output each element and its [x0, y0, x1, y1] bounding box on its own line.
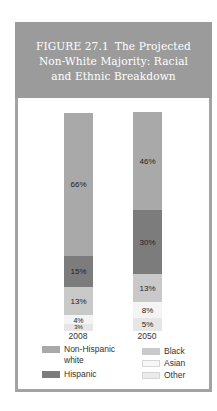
legend-hispanic: Hispanic [42, 369, 97, 380]
year-label-2008: 2008 [58, 331, 98, 341]
segment-other-2008: 3% [64, 324, 93, 331]
segment-black-2050: 13% [133, 274, 162, 302]
bar-2008: 66% 15% 13% 4% 3% [64, 113, 93, 331]
figure-label: FIGURE 27.1 [36, 40, 109, 52]
figure-header: FIGURE 27.1The Projected Non-White Major… [15, 22, 212, 98]
swatch-other [142, 372, 160, 379]
segment-other-2050: 5% [133, 318, 162, 331]
segment-non-hispanic-white-2008: 66% [64, 113, 93, 256]
legend-non-hispanic-white: Non-Hispanicwhite [42, 344, 115, 366]
title-line-2: Non-White Majority: Racial [15, 54, 212, 69]
swatch-hispanic [42, 371, 60, 378]
legend-asian: Asian [142, 358, 185, 369]
year-label-2050: 2050 [127, 331, 167, 341]
legend-black: Black [142, 346, 185, 357]
legend-other: Other [142, 370, 185, 381]
segment-black-2008: 13% [64, 287, 93, 315]
segment-hispanic-2050: 30% [133, 210, 162, 274]
chart-panel: 66% 15% 13% 4% 3% 2008 46% 30% 13% 8% 5%… [18, 98, 209, 389]
segment-hispanic-2008: 15% [64, 256, 93, 287]
segment-non-hispanic-white-2050: 46% [133, 112, 162, 210]
swatch-non-hispanic-white [42, 346, 60, 353]
bar-2050: 46% 30% 13% 8% 5% [133, 112, 162, 331]
title-line-3: and Ethnic Breakdown [15, 69, 212, 84]
figure-frame: FIGURE 27.1The Projected Non-White Major… [15, 22, 212, 392]
title-line-1: FIGURE 27.1The Projected [15, 39, 212, 54]
swatch-asian [142, 360, 160, 367]
segment-asian-2050: 8% [133, 302, 162, 318]
segment-asian-2008: 4% [64, 315, 93, 324]
swatch-black [142, 348, 160, 355]
